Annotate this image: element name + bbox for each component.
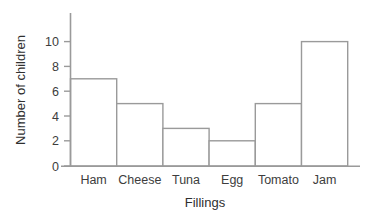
y-tick-label-8: 8 — [52, 60, 59, 74]
y-tick-marks — [64, 42, 71, 166]
x-label-cheese: Cheese — [118, 173, 161, 187]
x-axis-title: Fillings — [185, 195, 226, 210]
x-label-ham: Ham — [80, 173, 106, 187]
chart-canvas: 10 8 6 4 2 0 Ham Cheese Tuna Egg Tomato … — [0, 0, 369, 223]
y-tick-label-2: 2 — [52, 134, 59, 148]
x-label-egg: Egg — [221, 173, 243, 187]
y-tick-label-4: 4 — [52, 110, 59, 124]
y-tick-labels: 10 8 6 4 2 0 — [45, 35, 59, 173]
x-label-tuna: Tuna — [172, 173, 200, 187]
bar-ham — [71, 79, 117, 166]
bar-cheese — [117, 104, 163, 166]
y-tick-label-6: 6 — [52, 85, 59, 99]
y-tick-label-10: 10 — [45, 35, 59, 49]
bar-tomato — [255, 104, 301, 166]
bar-chart-figure: 10 8 6 4 2 0 Ham Cheese Tuna Egg Tomato … — [0, 0, 369, 223]
bar-tuna — [163, 128, 209, 166]
bar-egg — [209, 141, 255, 166]
bars-group — [71, 42, 348, 166]
x-label-tomato: Tomato — [258, 173, 299, 187]
x-label-jam: Jam — [313, 173, 337, 187]
x-category-labels: Ham Cheese Tuna Egg Tomato Jam — [80, 173, 336, 187]
bar-jam — [302, 42, 348, 166]
y-tick-label-0: 0 — [52, 160, 59, 174]
y-axis-title: Number of children — [13, 35, 28, 145]
